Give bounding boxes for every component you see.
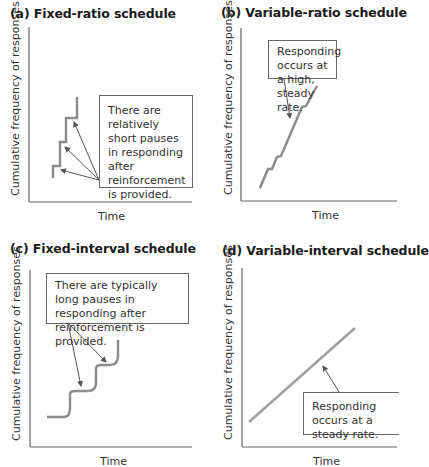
panel-a-x-axis-label: Time (98, 210, 125, 223)
panel-a-title: (a) Fixed-ratio schedule (10, 6, 176, 21)
panel-c-title: (c) Fixed-interval schedule (10, 241, 196, 256)
panel-a-callout: There are relatively short pauses in res… (99, 95, 193, 188)
panel-d-callout: Responding occurs at a steady rate. (303, 392, 399, 435)
panel-d-arrow (323, 366, 339, 392)
panel-b-y-axis-label: Cumulative frequency of responses (222, 0, 235, 195)
panel-c-callout: There are typically long pauses in respo… (46, 273, 189, 324)
panel-b-x-axis-label: Time (312, 209, 339, 222)
panel-a-curve (53, 97, 77, 178)
panel-c-y-axis-label: Cumulative frequency of responses (10, 246, 23, 441)
panel-a-y-axis-label: Cumulative frequency of responses (9, 1, 22, 196)
panel-d-title: (d) Variable-interval schedule (222, 243, 429, 258)
panel-d-y-axis-label: Cumulative frequency of responses (222, 245, 235, 440)
panel-b-title: (b) Variable-ratio schedule (221, 5, 407, 20)
panel-c-x-axis-label: Time (100, 455, 127, 467)
panel-b-callout: Responding occurs at a high, steady rate… (268, 40, 337, 79)
panel-c-curve (47, 340, 118, 417)
panel-d-x-axis-label: Time (313, 455, 340, 467)
